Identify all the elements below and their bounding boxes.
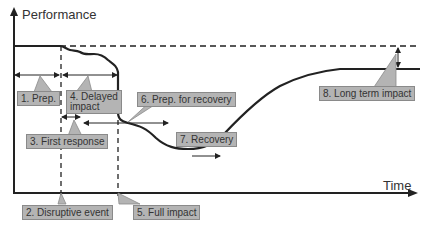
disruptive-callout-pointer [58, 193, 66, 204]
long-term-callout-pointer [374, 54, 396, 87]
label-delayed-impact: 4. Delayed impact [66, 90, 122, 114]
prep-callout-pointer [34, 76, 52, 92]
label-first-response: 3. First response [26, 134, 108, 149]
label-recovery: 7. Recovery [176, 132, 237, 147]
diagram-canvas [0, 0, 436, 233]
label-full-impact: 5. Full impact [133, 205, 200, 220]
label-disruptive-event: 2. Disruptive event [22, 205, 113, 220]
label-prep-for-recovery: 6. Prep. for recovery [137, 92, 236, 107]
full-impact-callout-pointer [118, 193, 140, 204]
label-prep: 1. Prep. [17, 91, 60, 106]
resilience-diagram: Performance Time 1. Prep. 4. Delayed imp… [0, 0, 436, 233]
y-axis-label: Performance [22, 7, 96, 22]
y-axis-arrow-icon [10, 7, 18, 16]
label-delayed-impact-line2: impact [70, 102, 118, 112]
x-axis-label: Time [383, 178, 411, 193]
label-long-term-impact: 8. Long term impact [319, 86, 415, 101]
x-axis [13, 189, 418, 197]
